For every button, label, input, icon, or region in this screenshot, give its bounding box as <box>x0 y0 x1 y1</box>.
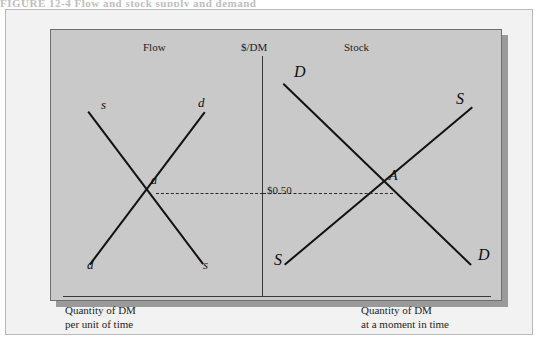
flow-demand-label-top: d <box>198 96 205 109</box>
scan-top-caption: FIGURE 12-4 Flow and stock supply and de… <box>0 0 549 7</box>
stock-demand-label-bottom: D <box>478 247 490 263</box>
stock-equilibrium-point-label: A <box>389 169 398 183</box>
flow-demand-label-bottom: d <box>87 258 94 271</box>
stock-price-dotted-line <box>263 193 393 194</box>
flow-supply-label-top: s <box>101 98 106 111</box>
figure-panel: Flow $/DM Stock s s d d a $0.50 D D S S … <box>50 29 502 301</box>
price-axis-title: $/DM <box>241 41 267 53</box>
footer-divider-rule <box>63 296 491 297</box>
right-axis-caption: Quantity of DM at a moment in time <box>361 304 449 332</box>
price-axis-line <box>262 56 263 296</box>
left-axis-caption: Quantity of DM per unit of time <box>65 304 136 332</box>
stock-demand-label-top: D <box>294 64 306 80</box>
flow-supply-label-bottom: s <box>203 258 208 271</box>
flow-price-dotted-line <box>156 193 263 194</box>
equilibrium-price-label: $0.50 <box>267 184 292 196</box>
stock-supply-label-bottom: S <box>274 252 282 268</box>
stock-supply-label-top: S <box>456 91 464 107</box>
right-panel-title: Stock <box>344 41 369 53</box>
flow-equilibrium-point-label: a <box>151 174 157 186</box>
stock-demand-curve <box>283 83 472 266</box>
left-axis-caption-line1: Quantity of DM <box>65 304 136 318</box>
right-axis-caption-line1: Quantity of DM <box>361 304 449 318</box>
left-axis-caption-line2: per unit of time <box>65 318 136 332</box>
left-panel-title: Flow <box>143 41 166 53</box>
right-axis-caption-line2: at a moment in time <box>361 318 449 332</box>
